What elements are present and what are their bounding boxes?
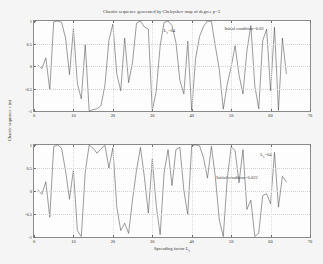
gridline-vertical <box>271 21 272 111</box>
x-tick-mark <box>271 109 272 111</box>
chart-title: Chaotic sequence generated by Chebyshev … <box>0 9 323 14</box>
y-tick-label: -0.5 <box>25 86 32 91</box>
x-tick-mark <box>73 235 74 237</box>
x-tick-label: 0 <box>33 239 35 244</box>
y-tick-mark <box>34 214 36 215</box>
x-tick-mark-top <box>231 21 232 23</box>
y-tick-mark <box>34 66 36 67</box>
figure-canvas: Chaotic sequence c (n) Chaotic sequence … <box>0 0 323 264</box>
x-tick-mark-top <box>113 145 114 147</box>
gridline-vertical <box>152 21 153 111</box>
x-tick-mark <box>113 235 114 237</box>
x-tick-label: 70 <box>308 239 312 244</box>
gridline-vertical <box>152 145 153 237</box>
x-tick-mark-top <box>310 21 311 23</box>
x-tick-mark-top <box>271 21 272 23</box>
x-tick-label: 60 <box>268 113 272 118</box>
x-tick-mark-top <box>310 145 311 147</box>
annotation-lc-value-top: =64 <box>168 28 175 33</box>
subplot-top: Chaotic sequence generated by Chebyshev … <box>0 6 323 132</box>
x-tick-mark <box>310 235 311 237</box>
x-tick-label: 20 <box>111 113 115 118</box>
annotation-lc-top: Lc=64 <box>164 28 175 35</box>
y-tick-label: 1 <box>30 19 32 24</box>
x-tick-label: 30 <box>150 239 154 244</box>
y-tick-mark <box>34 89 36 90</box>
x-tick-mark <box>152 109 153 111</box>
x-tick-mark <box>271 235 272 237</box>
x-tick-mark <box>113 109 114 111</box>
x-tick-label: 50 <box>229 239 233 244</box>
x-tick-mark-top <box>152 145 153 147</box>
subplot-bottom: Lc=64 Initial condition=0.022 10.50-0.5-… <box>0 132 323 264</box>
gridline-horizontal <box>34 168 310 169</box>
x-tick-mark-top <box>192 21 193 23</box>
x-tick-label: 30 <box>150 113 154 118</box>
y-tick-label: 1 <box>30 143 32 148</box>
gridline-horizontal <box>34 89 310 90</box>
x-tick-mark <box>73 109 74 111</box>
x-tick-label: 50 <box>229 113 233 118</box>
gridline-vertical <box>192 21 193 111</box>
x-tick-mark-top <box>271 145 272 147</box>
gridline-horizontal <box>34 44 310 45</box>
gridline-horizontal <box>34 66 310 67</box>
y-tick-label: 0.5 <box>27 166 33 171</box>
y-tick-mark <box>34 44 36 45</box>
y-tick-label: -0.5 <box>25 212 32 217</box>
x-tick-mark <box>192 235 193 237</box>
x-tick-label: 40 <box>190 239 194 244</box>
y-tick-label: -1 <box>28 235 32 240</box>
gridline-vertical <box>113 21 114 111</box>
x-tick-mark <box>192 109 193 111</box>
y-tick-mark <box>34 191 36 192</box>
annotation-initial-condition-bottom: Initial condition=0.022 <box>216 175 258 180</box>
x-tick-mark <box>152 235 153 237</box>
plot-area-top: Lc=64 Initial condition=0.02 10.50-0.5-1… <box>33 20 311 112</box>
x-tick-mark <box>34 109 35 111</box>
gridline-vertical <box>73 21 74 111</box>
x-tick-mark <box>34 235 35 237</box>
x-tick-label: 70 <box>308 113 312 118</box>
gridline-vertical <box>192 145 193 237</box>
x-tick-label: 10 <box>71 239 75 244</box>
x-tick-mark <box>310 109 311 111</box>
x-tick-label: 0 <box>33 113 35 118</box>
gridline-vertical <box>231 21 232 111</box>
gridline-vertical <box>231 145 232 237</box>
gridline-horizontal <box>34 191 310 192</box>
x-tick-mark-top <box>34 21 35 23</box>
x-tick-mark-top <box>192 145 193 147</box>
plot-area-bottom: Lc=64 Initial condition=0.022 10.50-0.5-… <box>33 144 311 238</box>
x-axis-label-main: Spreading factor L <box>154 246 188 251</box>
x-tick-label: 10 <box>71 113 75 118</box>
x-axis-label-subscript: c <box>188 249 189 253</box>
y-tick-mark <box>34 168 36 169</box>
x-tick-mark-top <box>152 21 153 23</box>
y-tick-label: 0 <box>30 64 32 69</box>
x-tick-label: 20 <box>111 239 115 244</box>
x-tick-mark-top <box>231 145 232 147</box>
gridline-vertical <box>271 145 272 237</box>
gridline-vertical <box>113 145 114 237</box>
x-axis-label: Spreading factor Lc <box>33 246 311 253</box>
x-tick-mark <box>231 109 232 111</box>
x-tick-mark-top <box>34 145 35 147</box>
x-tick-label: 40 <box>190 113 194 118</box>
gridline-horizontal <box>34 214 310 215</box>
x-tick-mark-top <box>73 21 74 23</box>
gridline-vertical <box>73 145 74 237</box>
x-tick-mark <box>231 235 232 237</box>
y-tick-label: 0.5 <box>27 41 33 46</box>
x-tick-mark-top <box>113 21 114 23</box>
x-tick-mark-top <box>73 145 74 147</box>
y-tick-label: -1 <box>28 109 32 114</box>
y-tick-label: 0 <box>30 189 32 194</box>
x-tick-label: 60 <box>268 239 272 244</box>
